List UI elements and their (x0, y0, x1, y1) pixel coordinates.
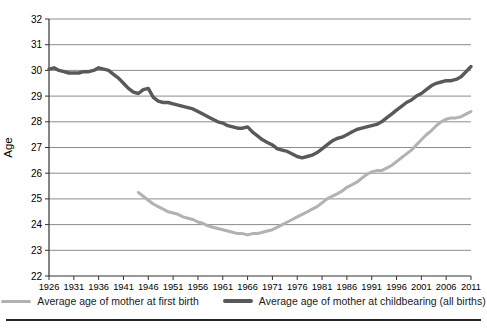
x-tick-label: 1941 (113, 282, 134, 292)
legend-label-first-birth: Average age of mother at first birth (37, 295, 198, 307)
x-tick-label: 1926 (39, 282, 60, 292)
y-tick-label: 27 (31, 142, 43, 153)
legend-swatch-all-births (223, 299, 253, 303)
bottom-divider (6, 319, 481, 321)
x-tick-label: 1936 (88, 282, 109, 292)
x-tick-label: 1981 (312, 282, 333, 292)
x-tick-label: 1991 (361, 282, 382, 292)
y-tick-label: 30 (31, 65, 43, 76)
y-axis-title: Age (2, 137, 14, 157)
y-tick-label: 26 (31, 168, 43, 179)
x-tick-label: 1996 (386, 282, 407, 292)
x-tick-label: 1971 (262, 282, 283, 292)
chart-figure: 2223242526272829303132192619311936194119… (0, 0, 487, 330)
y-tick-label: 22 (31, 271, 43, 282)
y-tick-label: 29 (31, 91, 43, 102)
y-tick-label: 25 (31, 193, 43, 204)
x-tick-label: 1956 (188, 282, 209, 292)
x-tick-label: 1966 (237, 282, 258, 292)
y-tick-label: 32 (31, 14, 43, 25)
series-line-all-births (49, 67, 471, 158)
x-tick-label: 1931 (63, 282, 84, 292)
x-tick-label: 1961 (212, 282, 233, 292)
line-chart: 2223242526272829303132192619311936194119… (0, 0, 487, 294)
x-tick-label: 2011 (461, 282, 481, 292)
x-tick-label: 1951 (163, 282, 184, 292)
y-tick-label: 23 (31, 245, 43, 256)
legend-item-all-births: Average age of mother at childbearing (a… (223, 295, 486, 307)
y-tick-label: 31 (31, 39, 43, 50)
legend-item-first-birth: Average age of mother at first birth (1, 295, 198, 307)
y-tick-label: 24 (31, 219, 43, 230)
x-tick-label: 1976 (287, 282, 308, 292)
legend-label-all-births: Average age of mother at childbearing (a… (259, 295, 486, 307)
x-tick-label: 2006 (436, 282, 457, 292)
legend-swatch-first-birth (1, 300, 31, 303)
chart-legend: Average age of mother at first birth Ave… (0, 295, 487, 307)
x-tick-label: 1986 (337, 282, 358, 292)
y-tick-label: 28 (31, 116, 43, 127)
x-tick-label: 2001 (411, 282, 432, 292)
x-tick-label: 1946 (138, 282, 159, 292)
